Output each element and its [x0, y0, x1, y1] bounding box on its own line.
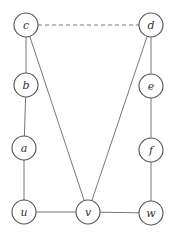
edges [24, 25, 151, 213]
edge-v-w [100, 212, 139, 213]
node-label: u [20, 206, 27, 219]
node-label: e [148, 80, 155, 93]
node-f: f [139, 138, 163, 162]
node-b: b [14, 73, 38, 97]
node-label: d [147, 19, 154, 32]
edge-c-v [30, 36, 84, 200]
edge-d-v [92, 36, 147, 200]
node-label: w [146, 207, 156, 220]
node-label: a [21, 142, 28, 155]
node-d: d [139, 13, 163, 37]
node-label: b [22, 79, 29, 92]
node-e: e [139, 74, 163, 98]
node-a: a [12, 136, 36, 160]
node-c: c [14, 13, 38, 37]
node-label: v [85, 206, 92, 219]
node-w: w [139, 201, 163, 225]
graph-diagram: cdbeafuvw [0, 0, 177, 237]
node-v: v [76, 200, 100, 224]
node-u: u [12, 200, 36, 224]
nodes: cdbeafuvw [12, 13, 163, 225]
node-label: c [23, 19, 29, 32]
edge-b-a [24, 97, 25, 136]
